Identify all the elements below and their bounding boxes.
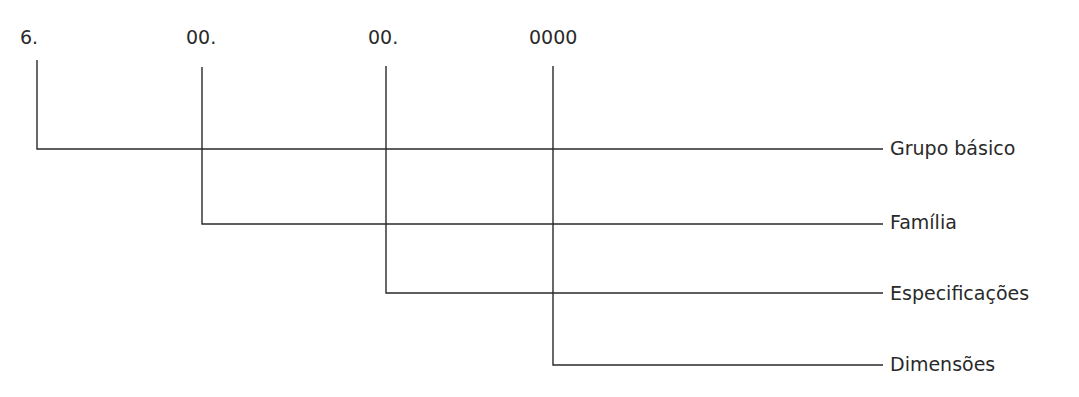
connector-dimensions [553,66,883,365]
label-familia: Família [890,211,957,233]
label-especificacoes: Especificações [890,282,1029,304]
label-dimensoes: Dimensões [890,353,995,375]
connector-specifications [386,66,883,293]
label-grupo-basico: Grupo básico [890,137,1015,159]
connector-group [37,60,883,149]
connector-family [202,67,883,224]
connector-lines [0,0,1079,397]
